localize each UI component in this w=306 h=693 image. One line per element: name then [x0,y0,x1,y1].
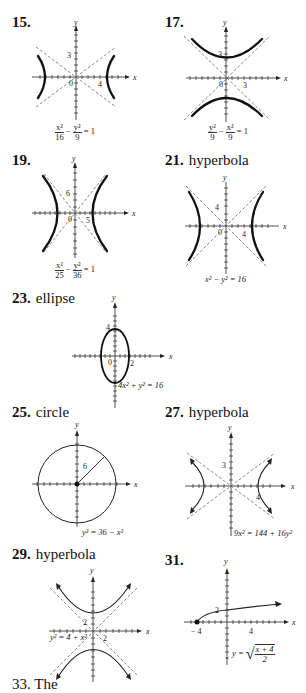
equation-17: y²9 − x²9 = 1 [208,123,248,142]
svg-text:y: y [89,566,94,575]
problem-25-label: 25.circle [12,404,69,421]
svg-text:x: x [168,352,173,361]
equation-23: 4x² + y² = 16 [118,380,163,390]
svg-text:3: 3 [67,51,71,60]
svg-text:3: 3 [218,50,222,59]
equation-27: 9x² = 144 + 16y² [234,528,292,538]
problem-15-number: 15. [12,14,31,31]
svg-text:6: 6 [83,462,87,471]
problem-27-label: 27.hyperbola [165,404,249,421]
svg-text:2: 2 [83,618,87,627]
graph-15: y x 3 4 0 [30,20,140,125]
svg-text:0: 0 [68,215,72,224]
svg-text:4: 4 [98,80,102,89]
svg-text:4: 4 [106,323,110,332]
svg-text:0: 0 [69,79,73,88]
problem-21-label: 21.hyperbola [165,152,249,169]
svg-text:x: x [290,482,295,491]
graph-23: y x 4 2 0 [70,296,170,411]
svg-text:2: 2 [215,606,219,615]
svg-text:6: 6 [66,189,70,198]
svg-text:y: y [111,293,116,302]
equation-29: y² = 4 + x² [50,632,87,642]
svg-text:y: y [223,557,228,566]
svg-text:− 4: − 4 [191,627,202,636]
problem-17-number: 17. [165,14,184,31]
svg-text:4: 4 [256,493,260,502]
svg-text:y: y [74,420,79,429]
svg-text:x: x [133,480,138,489]
svg-text:x: x [282,222,287,231]
svg-text:4: 4 [215,203,219,212]
equation-31: y = √x + 42 [232,644,275,664]
graph-25: y x 6 [30,424,140,529]
truncated-next-problem: 33. The [12,676,58,693]
graph-19: y x 6 5 0 [30,158,140,263]
svg-text:0: 0 [219,80,223,89]
graph-27: y x 3 4 [183,428,303,538]
x-axis-label: x [132,73,137,82]
svg-text:y: y [71,154,76,163]
graph-29: y x 2 2 [45,570,155,685]
svg-text:5: 5 [86,216,90,225]
svg-text:x: x [145,627,150,636]
svg-text:3: 3 [243,81,247,90]
equation-15: x²16 − y²9 = 1 [55,123,95,142]
svg-text:x: x [283,74,288,83]
svg-text:4: 4 [242,230,246,239]
svg-text:0: 0 [218,228,222,237]
equation-21: x² − y² = 16 [205,274,246,284]
equation-19: x²25 − y²36 = 1 [55,261,95,280]
problem-31-number: 31. [165,552,184,569]
svg-text:0: 0 [108,358,112,367]
problem-23-label: 23.ellipse [12,290,75,307]
svg-text:x: x [291,618,296,627]
svg-text:x: x [131,209,136,218]
svg-text:y: y [227,423,232,432]
svg-text:2: 2 [103,634,107,643]
equation-25: y² = 36 − x² [82,527,123,537]
svg-text:2: 2 [130,359,134,368]
problem-19-number: 19. [12,152,31,169]
svg-text:y: y [222,18,227,27]
svg-text:4: 4 [249,627,253,636]
y-axis-label: y [73,18,78,27]
problem-29-label: 29.hyperbola [12,546,96,563]
graph-21: y x 4 4 0 [183,178,293,276]
svg-text:y: y [222,173,227,182]
svg-text:3: 3 [222,461,226,470]
graph-17: y x 3 3 0 [182,20,292,125]
